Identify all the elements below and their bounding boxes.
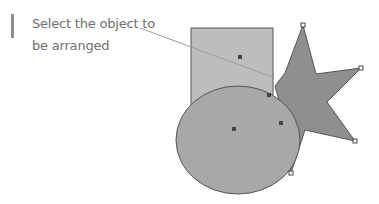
shapes-canvas (0, 0, 379, 204)
star-point-handle-lower-right[interactable] (353, 139, 357, 143)
ellipse-center-handle[interactable] (232, 127, 236, 131)
rectangle-center-handle[interactable] (238, 55, 242, 59)
star-center-handle[interactable] (279, 121, 283, 125)
star-point-handle-top[interactable] (301, 23, 305, 27)
star-point-handle-bottom[interactable] (289, 171, 293, 175)
star-point-handle-right[interactable] (359, 66, 363, 70)
ellipse-shape[interactable] (176, 86, 300, 194)
star-inner-handle[interactable] (267, 93, 271, 97)
